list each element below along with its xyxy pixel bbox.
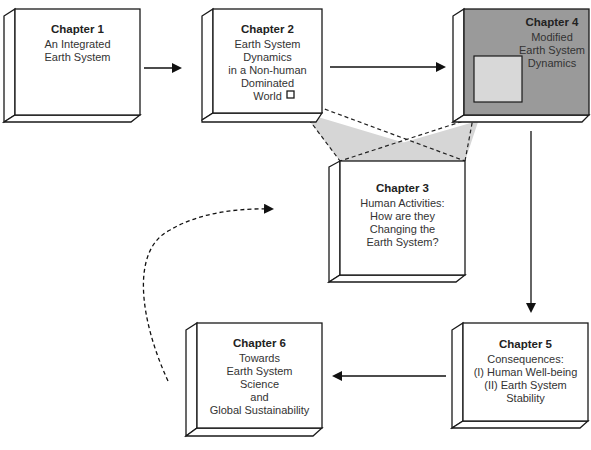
chapter-3-line: Earth System? — [340, 236, 465, 249]
chapter-6-line: Global Sustainability — [197, 404, 322, 417]
chapter-2-title: Chapter 2 — [213, 23, 322, 36]
chapter-2-line: World — [213, 90, 322, 103]
chapter-4-line: Dynamics — [514, 57, 590, 70]
chapter-6-line: Science — [197, 378, 322, 391]
chapter-4-title: Chapter 4 — [514, 16, 590, 29]
chapter-2-line: Dynamics — [213, 51, 322, 64]
chapter-4-line: Modified — [514, 31, 590, 44]
chapter-5-line: Stability — [463, 392, 588, 405]
chapter-1-label: Chapter 1 An Integrated Earth System — [15, 23, 140, 64]
chapter-1-title: Chapter 1 — [15, 23, 140, 36]
chapter-5-line: (I) Human Well-being — [463, 366, 588, 379]
chapter-3-line: How are they — [340, 210, 465, 223]
chapter-4-line: Earth System — [514, 44, 590, 57]
chapter-6-line: Towards — [197, 352, 322, 365]
chapter-5-line: (II) Earth System — [463, 379, 588, 392]
chapter-6-line: and — [197, 391, 322, 404]
chapter-6-label: Chapter 6 Towards Earth System Science a… — [197, 337, 322, 417]
chapter-1-line: Earth System — [15, 51, 140, 64]
chapter-3-label: Chapter 3 Human Activities: How are they… — [340, 182, 465, 249]
chapter-6-line: Earth System — [197, 365, 322, 378]
chapter-4-label: Chapter 4 Modified Earth System Dynamics — [514, 16, 590, 70]
chapter-5-line: Consequences: — [463, 353, 588, 366]
chapter-3-line: Human Activities: — [340, 197, 465, 210]
chapter-5-title: Chapter 5 — [463, 338, 588, 351]
chapter-2-line: Dominated — [213, 77, 322, 90]
chapter-2-line: in a Non-human — [213, 64, 322, 77]
chapter-2-line: Earth System — [213, 38, 322, 51]
chapter-5-label: Chapter 5 Consequences: (I) Human Well-b… — [463, 338, 588, 405]
chapter-2-label: Chapter 2 Earth System Dynamics in a Non… — [213, 23, 322, 103]
chapter-3-title: Chapter 3 — [340, 182, 465, 195]
chapter-3-line: Changing the — [340, 223, 465, 236]
chapter-6-title: Chapter 6 — [197, 337, 322, 350]
chapter-1-line: An Integrated — [15, 38, 140, 51]
